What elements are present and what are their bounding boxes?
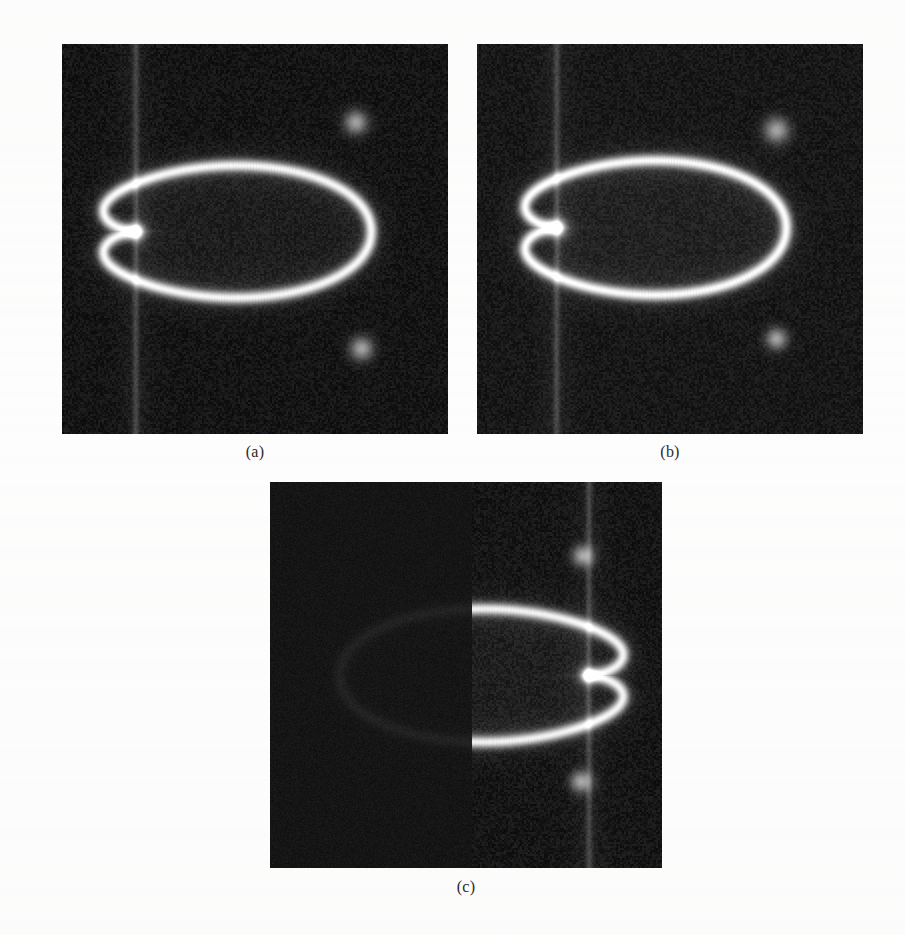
panel-c-image bbox=[270, 482, 662, 868]
figure-panel-c bbox=[270, 482, 662, 868]
figure-panel-b bbox=[477, 44, 863, 434]
panel-caption-b: (b) bbox=[630, 443, 710, 461]
panel-caption-a: (a) bbox=[215, 443, 295, 461]
panel-caption-c: (c) bbox=[426, 878, 506, 896]
panel-a-image bbox=[62, 44, 448, 434]
figure-panel-a bbox=[62, 44, 448, 434]
panel-b-image bbox=[477, 44, 863, 434]
figure-root: (a) (b) (c) bbox=[0, 0, 905, 935]
